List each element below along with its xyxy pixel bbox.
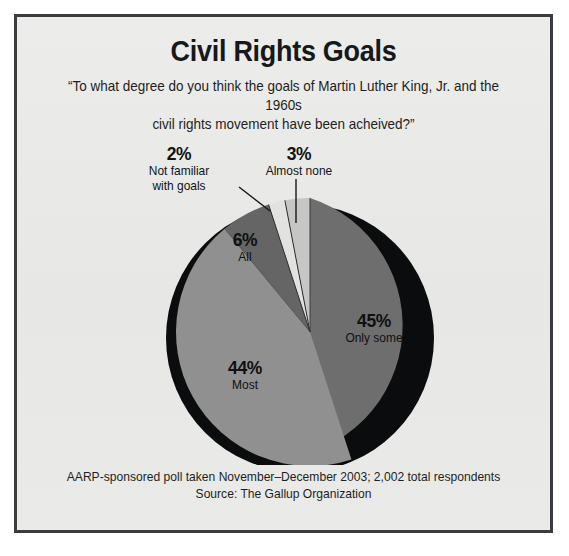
- callout-not-familiar-name-line1: Not familiar: [124, 164, 234, 179]
- callout-almost-none: 3% Almost none: [243, 143, 355, 179]
- callout-not-familiar-name-line2: with goals: [124, 179, 234, 194]
- slice-label-all-pct: 6%: [216, 229, 273, 250]
- callout-not-familiar-pct: 2%: [126, 143, 233, 164]
- slice-label-most-name: Most: [199, 378, 290, 393]
- pie-chart: 2% Not familiar with goals 3% Almost non…: [17, 125, 550, 465]
- callout-almost-none-name: Almost none: [246, 164, 352, 179]
- leader-line-not-familiar: [239, 187, 270, 211]
- callout-almost-none-pct: 3%: [247, 143, 350, 164]
- page-title: Civil Rights Goals: [36, 35, 532, 68]
- slice-label-all-name: All: [216, 250, 275, 265]
- slice-label-most-pct: 44%: [201, 357, 289, 378]
- slice-label-most: 44% Most: [197, 357, 293, 393]
- slice-label-only-some-pct: 45%: [320, 310, 429, 331]
- slice-label-only-some: 45% Only some: [315, 310, 433, 346]
- callout-not-familiar: 2% Not familiar with goals: [121, 143, 237, 194]
- source-note: AARP-sponsored poll taken November–Decem…: [47, 469, 520, 502]
- poll-question-line1: “To what degree do you think the goals o…: [68, 78, 499, 113]
- poster-frame: Civil Rights Goals “To what degree do yo…: [14, 14, 553, 533]
- source-note-line1: AARP-sponsored poll taken November–Decem…: [67, 470, 500, 484]
- source-note-line2: Source: The Gallup Organization: [47, 486, 520, 503]
- slice-label-all: 6% All: [214, 229, 276, 265]
- slice-label-only-some-name: Only some: [318, 331, 430, 346]
- infographic-poster: Civil Rights Goals “To what degree do yo…: [0, 0, 569, 556]
